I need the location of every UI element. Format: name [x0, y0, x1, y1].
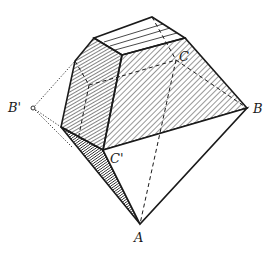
label-b-prime: B': [8, 101, 21, 114]
label-a: A: [134, 231, 143, 244]
label-c-prime: C': [110, 152, 124, 165]
label-c: C: [179, 50, 189, 63]
polyhedron-diagram: [0, 0, 276, 258]
b-prime-point: [31, 106, 35, 110]
label-b: B: [253, 102, 263, 115]
